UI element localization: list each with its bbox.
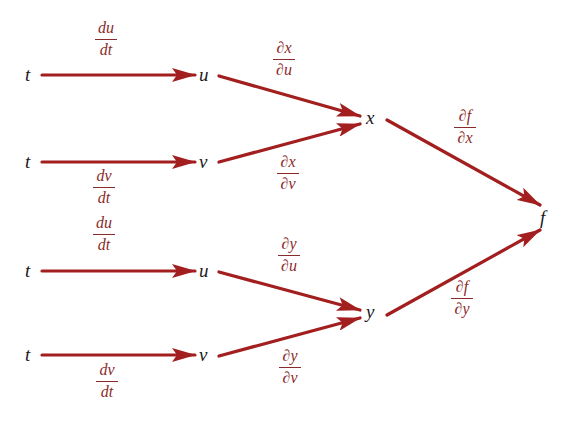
node-f: f (540, 208, 545, 227)
label-du-dt-2: du dt (93, 215, 115, 254)
label-dy-dv: ∂y ∂v (279, 348, 301, 387)
node-v-1: v (199, 152, 207, 171)
fraction-bar (273, 59, 295, 60)
label-num: dv (97, 362, 116, 379)
node-u-1: u (199, 65, 209, 84)
fraction-bar (279, 367, 301, 368)
label-den: dt (96, 190, 112, 207)
label-num: ∂y (279, 236, 298, 253)
label-dx-du: ∂x ∂u (273, 40, 295, 79)
node-v-2: v (199, 345, 207, 364)
node-t-4: t (25, 345, 30, 364)
label-den: dt (99, 384, 115, 401)
fraction-bar (95, 39, 117, 40)
fraction-bar (451, 298, 473, 299)
fraction-bar (278, 255, 300, 256)
label-den: ∂y (452, 301, 471, 318)
label-dv-dt-1: dv dt (93, 168, 115, 207)
label-num: du (94, 215, 114, 232)
label-df-dx: ∂f ∂x (454, 108, 476, 147)
label-num: ∂x (274, 40, 293, 57)
label-num: dv (94, 168, 113, 185)
label-den: ∂x (455, 130, 474, 147)
label-num: ∂f (457, 108, 473, 125)
label-dy-du: ∂y ∂u (278, 236, 300, 275)
node-x: x (366, 108, 374, 127)
fraction-bar (454, 127, 476, 128)
label-df-dy: ∂f ∂y (451, 279, 473, 318)
label-den: ∂v (280, 370, 299, 387)
node-u-2: u (199, 261, 209, 280)
label-num: du (96, 20, 116, 37)
label-du-dt-1: du dt (95, 20, 117, 59)
label-num: ∂x (278, 154, 297, 171)
fraction-bar (93, 234, 115, 235)
edge-u-x (219, 76, 360, 116)
label-den: dt (98, 42, 114, 59)
label-den: ∂v (278, 176, 297, 193)
fraction-bar (96, 381, 118, 382)
label-num: ∂y (280, 348, 299, 365)
fraction-bar (277, 173, 299, 174)
fraction-bar (93, 187, 115, 188)
label-den: ∂u (279, 258, 299, 275)
node-y: y (366, 302, 374, 321)
label-num: ∂f (454, 279, 470, 296)
node-t-3: t (25, 261, 30, 280)
label-dv-dt-2: dv dt (96, 362, 118, 401)
node-t-2: t (25, 152, 30, 171)
edge-u-y (219, 272, 360, 310)
label-den: ∂u (274, 62, 294, 79)
label-den: dt (96, 237, 112, 254)
label-dx-dv: ∂x ∂v (277, 154, 299, 193)
node-t-1: t (25, 65, 30, 84)
